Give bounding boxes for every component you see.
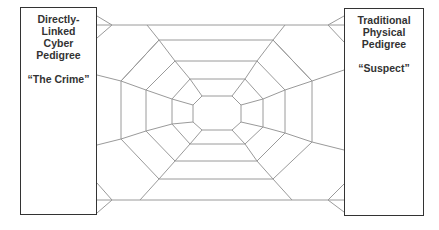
web-ring-3	[146, 61, 285, 161]
right-box-line-2: Physical	[345, 26, 423, 38]
cyber-pedigree-box: Directly- Linked Cyber Pedigree “The Cri…	[20, 7, 97, 215]
right-box-line-1: Traditional	[345, 14, 423, 26]
spoke-left-lower	[97, 122, 193, 145]
web-ring-inner	[193, 96, 241, 130]
spoke-right-upper	[241, 70, 344, 105]
right-top-connector	[328, 16, 344, 42]
right-bottom-connector	[328, 184, 344, 212]
left-box-line-4: Pedigree	[21, 49, 96, 61]
spoke-diag-ur	[273, 40, 312, 81]
left-box-line-1: Directly-	[21, 13, 96, 25]
physical-pedigree-box: Traditional Physical Pedigree “Suspect”	[344, 8, 424, 216]
left-box-line-3: Cyber	[21, 37, 96, 49]
spoke-right-lower	[241, 122, 344, 150]
spoke-bottom-left	[140, 130, 202, 200]
web-ring-4	[172, 79, 263, 144]
left-box-quote: “The Crime”	[21, 73, 96, 85]
right-box-line-3: Pedigree	[345, 38, 423, 50]
left-box-line-2: Linked	[21, 25, 96, 37]
spoke-left-upper	[97, 75, 193, 105]
left-top-connector	[97, 16, 112, 38]
spoke-diag-ul	[121, 40, 159, 81]
spoke-bottom-right	[232, 130, 292, 200]
left-bottom-connector	[97, 183, 112, 213]
right-box-quote: “Suspect”	[345, 62, 423, 74]
